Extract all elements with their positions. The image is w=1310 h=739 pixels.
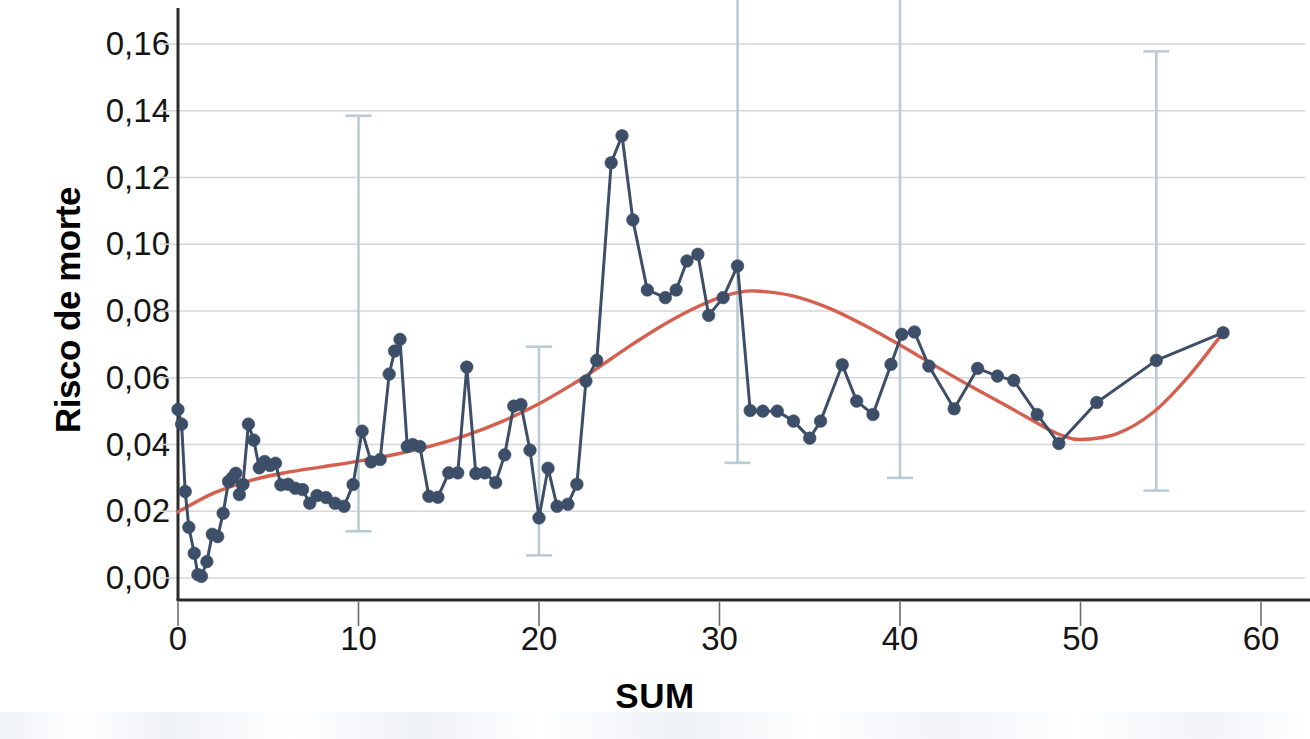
data-point-marker — [771, 405, 784, 418]
data-point-marker — [479, 467, 492, 480]
data-point-marker — [641, 284, 654, 297]
data-point-marker — [1053, 437, 1066, 450]
plot-area — [0, 0, 1310, 739]
data-point-marker — [338, 500, 351, 513]
data-point-marker — [692, 248, 705, 261]
data-point-marker — [551, 500, 564, 513]
data-point-marker — [201, 555, 214, 568]
data-point-marker — [533, 512, 546, 525]
data-point-marker — [296, 483, 309, 496]
y-tick-marks — [160, 44, 178, 578]
data-point-marker — [605, 157, 618, 170]
data-point-marker — [1090, 396, 1103, 409]
data-point-marker — [908, 326, 921, 339]
data-point-marker — [681, 255, 694, 268]
data-point-marker — [217, 507, 230, 520]
data-point-marker — [814, 415, 827, 428]
data-point-marker — [787, 415, 800, 428]
data-point-marker — [571, 478, 584, 491]
data-point-marker — [242, 418, 255, 431]
data-point-marker — [757, 405, 770, 418]
observed-markers — [172, 129, 1230, 582]
data-point-marker — [414, 440, 427, 453]
data-point-marker — [269, 457, 282, 470]
data-point-marker — [803, 432, 816, 445]
data-point-marker — [702, 309, 715, 322]
data-point-marker — [867, 408, 880, 421]
data-point-marker — [498, 449, 511, 462]
data-point-marker — [836, 358, 849, 371]
data-point-marker — [179, 485, 192, 498]
data-point-marker — [562, 498, 575, 511]
data-point-marker — [717, 291, 730, 304]
x-tick-marks — [178, 602, 1261, 626]
fit-line-path — [178, 291, 1223, 512]
observed-line-series — [178, 136, 1223, 577]
data-point-marker — [195, 570, 208, 583]
chart-container: Risco de morte SUM 0,000,020,040,060,080… — [0, 0, 1310, 739]
data-point-marker — [885, 358, 898, 371]
data-point-marker — [627, 214, 640, 227]
data-point-marker — [1217, 326, 1230, 339]
data-point-marker — [432, 491, 445, 504]
data-point-marker — [188, 547, 201, 560]
data-point-marker — [356, 425, 369, 438]
data-point-marker — [524, 444, 537, 457]
data-point-marker — [744, 404, 757, 417]
data-point-marker — [347, 478, 360, 491]
data-point-marker — [172, 403, 185, 416]
data-point-marker — [515, 398, 528, 411]
data-point-marker — [896, 328, 909, 341]
data-point-marker — [1150, 354, 1163, 367]
data-point-marker — [451, 467, 464, 480]
data-point-marker — [923, 360, 936, 373]
data-point-marker — [948, 402, 961, 415]
data-point-marker — [971, 362, 984, 375]
data-point-marker — [394, 333, 407, 346]
data-point-marker — [1007, 374, 1020, 387]
data-point-marker — [229, 467, 242, 480]
data-point-marker — [175, 418, 188, 431]
data-point-marker — [489, 476, 502, 489]
data-point-marker — [1031, 408, 1044, 421]
data-point-marker — [659, 291, 672, 304]
data-point-marker — [850, 395, 863, 408]
error-bars — [346, 0, 1170, 555]
data-point-marker — [991, 370, 1004, 383]
fit-line-series — [178, 291, 1223, 512]
data-point-marker — [388, 345, 401, 358]
data-point-marker — [248, 434, 261, 447]
data-point-marker — [616, 129, 629, 142]
data-point-marker — [183, 521, 196, 534]
data-point-marker — [670, 284, 683, 297]
data-point-marker — [237, 478, 250, 491]
observed-line-path — [178, 136, 1223, 577]
data-point-marker — [383, 368, 396, 381]
data-point-marker — [542, 462, 555, 475]
data-point-marker — [211, 530, 224, 543]
data-point-marker — [590, 354, 603, 367]
data-point-marker — [461, 361, 474, 374]
data-point-marker — [580, 375, 593, 388]
data-point-marker — [374, 453, 387, 466]
data-point-marker — [731, 260, 744, 273]
